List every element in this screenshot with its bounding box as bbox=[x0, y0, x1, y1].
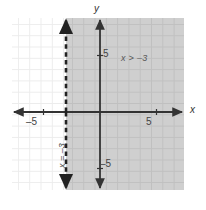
axis-label-x: x bbox=[190, 104, 195, 115]
grid-shaded bbox=[66, 18, 184, 190]
tick-label-y-positive: 5 bbox=[103, 48, 109, 59]
inequality-graph: –5 5 5 –5 x y x > –3 x = –3 bbox=[0, 0, 206, 210]
shaded-region-x-greater-than-neg3 bbox=[66, 18, 184, 190]
boundary-line-annotation: x = –3 bbox=[57, 143, 67, 168]
axis-label-y: y bbox=[94, 3, 99, 14]
tick-label-x-positive: 5 bbox=[146, 116, 152, 127]
tick-label-y-negative: –5 bbox=[100, 158, 111, 169]
plot-area bbox=[12, 18, 184, 190]
tick-label-x-negative: –5 bbox=[26, 116, 37, 127]
inequality-annotation: x > –3 bbox=[121, 53, 148, 63]
